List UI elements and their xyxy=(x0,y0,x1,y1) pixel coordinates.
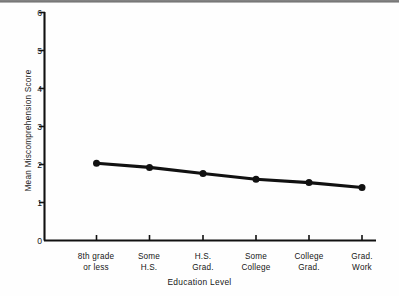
data-point-1 xyxy=(146,164,153,171)
chart-figure: Mean Miscomprehension Score 6 5 4 3 2 1 … xyxy=(0,0,399,296)
x-axis-label: Education Level xyxy=(0,277,399,287)
data-point-3 xyxy=(253,176,260,183)
data-point-5 xyxy=(359,184,366,191)
data-point-4 xyxy=(306,179,313,186)
data-point-0 xyxy=(93,160,100,167)
data-line-mean-miscomprehension xyxy=(97,163,363,187)
data-point-2 xyxy=(200,170,207,177)
x-tick-label-line-1: Grad. xyxy=(325,252,399,263)
x-tick-label-line-2: Work xyxy=(325,263,399,274)
x-tick-label-grad-work: Grad. Work xyxy=(325,252,399,273)
